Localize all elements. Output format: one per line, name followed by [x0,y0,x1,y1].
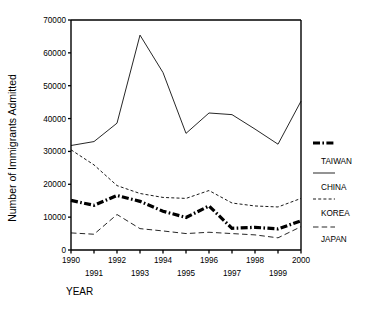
x-tick-label: 1991 [85,269,104,278]
chart-legend: TAIWANCHINAKOREAJAPAN [313,143,352,244]
y-tick-label: 30000 [43,147,66,156]
x-tick-label: 1992 [108,256,127,265]
x-axis-title: YEAR [66,286,93,297]
series-line-taiwan [71,35,301,145]
x-tick-label: 1994 [154,256,173,265]
chart-canvas: 010000200003000040000500006000070000 199… [0,0,378,314]
legend-label-korea: KOREA [321,209,350,218]
y-axis-tick-labels: 010000200003000040000500006000070000 [43,16,66,255]
immigration-line-chart-figure: 010000200003000040000500006000070000 199… [0,0,378,314]
y-tick-label: 70000 [43,16,66,25]
x-axis-tick-labels: 1990199119921993199419951996199719981999… [62,256,311,278]
legend-label-china: CHINA [321,183,347,192]
y-tick-label: 20000 [43,180,66,189]
series-line-china [71,150,301,207]
y-tick-label: 40000 [43,115,66,124]
x-tick-label: 1997 [223,269,242,278]
y-axis-title: Number of Immigrants Admitted [6,74,18,222]
x-tick-label: 2000 [292,256,311,265]
y-tick-label: 0 [61,246,66,255]
x-tick-label: 1998 [246,256,265,265]
legend-label-japan: JAPAN [321,235,347,244]
y-tick-label: 60000 [43,49,66,58]
x-tick-label: 1995 [177,269,196,278]
x-tick-label: 1993 [131,269,150,278]
x-tick-label: 1996 [200,256,219,265]
x-tick-label: 1990 [62,256,81,265]
legend-label-taiwan: TAIWAN [321,157,352,166]
data-series-group [71,35,301,238]
y-tick-label: 50000 [43,82,66,91]
y-tick-label: 10000 [43,213,66,222]
x-tick-label: 1999 [269,269,288,278]
